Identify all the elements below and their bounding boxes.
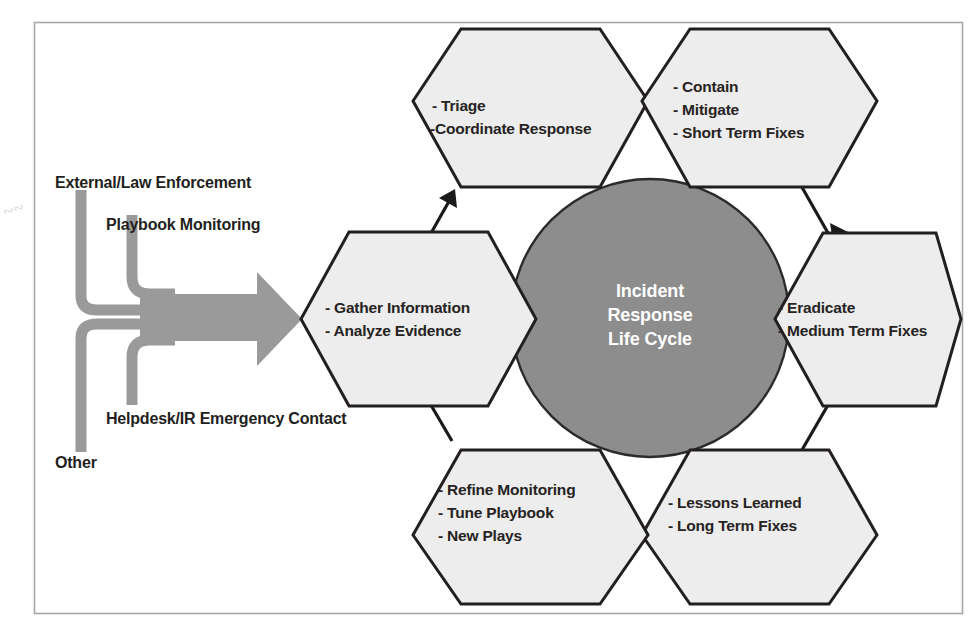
stage-hexagon-lessons-line-1: - Lessons Learned <box>668 494 802 511</box>
stage-hexagon-contain[interactable]: - Contain - Mitigate - Short Term Fixes <box>642 29 877 187</box>
stage-hexagon-gather-shape <box>301 232 536 406</box>
stage-hexagon-refine-line-1: - Refine Monitoring <box>438 481 575 498</box>
input-label-playbook: Playbook Monitoring <box>106 216 260 233</box>
stage-hexagon-contain-line-3: - Short Term Fixes <box>673 124 804 141</box>
stage-hexagon-refine-line-3: - New Plays <box>438 527 522 544</box>
stage-hexagon-refine[interactable]: - Refine Monitoring - Tune Playbook - Ne… <box>413 450 648 604</box>
stage-hexagon-eradicate-line-1: - Eradicate <box>778 299 856 316</box>
input-label-helpdesk: Helpdesk/IR Emergency Contact <box>106 410 347 427</box>
stage-hexagon-lessons[interactable]: - Lessons Learned - Long Term Fixes <box>642 450 877 604</box>
stage-hexagon-gather-line-2: - Analyze Evidence <box>325 322 462 339</box>
stage-hexagon-lessons-line-2: - Long Term Fixes <box>668 517 797 534</box>
stage-hexagon-triage-line-1: - Triage <box>432 97 486 114</box>
diagram-canvas: ∾∾ External/Law Enforcement Playbook Mon… <box>0 0 976 625</box>
stage-hexagon-contain-line-2: - Mitigate <box>673 101 740 118</box>
center-label-line3: Life Cycle <box>608 329 692 349</box>
incident-response-life-cycle-figure: External/Law Enforcement Playbook Monito… <box>0 0 976 625</box>
stage-hexagon-refine-line-2: - Tune Playbook <box>438 504 554 521</box>
center-label-line2: Response <box>607 305 692 325</box>
stage-hexagon-eradicate-line-2: - Medium Term Fixes <box>778 322 927 339</box>
input-label-other: Other <box>55 454 97 471</box>
stage-hexagon-triage-line-2: -Coordinate Response <box>430 120 592 137</box>
input-label-external: External/Law Enforcement <box>55 174 252 191</box>
stage-hexagon-gather-line-1: - Gather Information <box>325 299 470 316</box>
stage-hexagon-triage[interactable]: - Triage -Coordinate Response <box>413 29 648 187</box>
stage-hexagon-contain-line-1: - Contain <box>673 78 738 95</box>
stage-hexagon-gather[interactable]: - Gather Information - Analyze Evidence <box>301 232 536 406</box>
center-label-line1: Incident <box>616 281 684 301</box>
